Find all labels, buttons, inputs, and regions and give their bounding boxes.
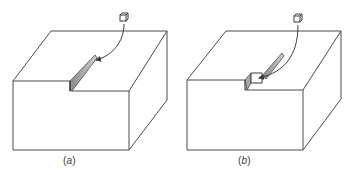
panel-b-slot <box>245 53 284 90</box>
slot-a-face <box>70 55 97 91</box>
block-b-right-face <box>303 31 341 150</box>
panel-a-insert-arrow <box>96 24 124 60</box>
panel-b-small-cube <box>294 14 302 22</box>
panel-b-block <box>187 31 341 150</box>
cube-a-front <box>120 15 126 21</box>
slot-b-blade <box>262 53 284 79</box>
caption-b: (b) <box>238 155 251 166</box>
block-a-right-face <box>129 31 167 150</box>
cube-b-front <box>294 16 300 22</box>
panel-b-insert-arrow <box>259 25 298 78</box>
diagram-canvas <box>0 0 354 175</box>
caption-a: (a) <box>63 155 76 166</box>
caption-a-close: ) <box>72 155 76 166</box>
block-b-top-left-edge <box>187 31 341 80</box>
diagram-figure: (a) (b) <box>0 0 354 175</box>
block-b-top-right-diagonal <box>303 31 341 90</box>
panel-a-block <box>13 31 167 150</box>
slot-b-side <box>245 73 251 90</box>
caption-b-close: ) <box>247 155 251 166</box>
panel-a-small-cube <box>120 13 128 21</box>
block-a-top-left-edge <box>13 31 167 81</box>
panel-a-slot <box>70 55 97 91</box>
block-a-top-right-diagonal <box>129 31 167 91</box>
